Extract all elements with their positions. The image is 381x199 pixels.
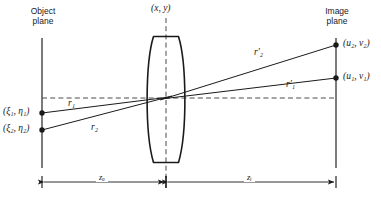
optical-ray-diagram: Object plane Image plane (x, y) (ξ₁, η₁)… [0, 0, 381, 199]
object-plane-label-line2: plane [20, 16, 66, 26]
ray-r2-label: r₂ [91, 122, 98, 133]
ray-r2-prime [160, 45, 336, 100]
image-distance-label: zᵢ [244, 172, 255, 182]
image-point-1-dot [333, 75, 338, 80]
ray-r1-label: r₁ [68, 98, 75, 109]
image-plane-label-line1: Image [314, 6, 360, 16]
object-point-2-label: (ξ₂, η₂) [3, 123, 29, 134]
ray-r2 [42, 96, 172, 130]
object-point-2-dot [39, 127, 44, 132]
image-point-1-label: (u₁, v₁) [343, 71, 370, 82]
ray-r1-prime [161, 78, 336, 99]
lens-axis-coordinate-label: (x, y) [151, 3, 171, 14]
object-distance-label: zₒ [96, 172, 108, 182]
image-point-2-label: (u₂, v₂) [343, 38, 370, 49]
image-plane-label: Image plane [314, 6, 360, 26]
image-point-2-dot [333, 42, 338, 47]
ray-r2-prime-label: r′₂ [254, 47, 263, 58]
ray-r1-prime-label: r′₁ [286, 79, 295, 90]
object-point-1-dot [39, 110, 44, 115]
object-plane-label: Object plane [20, 6, 66, 26]
diagram-canvas [0, 0, 381, 199]
image-plane-label-line2: plane [314, 16, 360, 26]
object-point-1-label: (ξ₁, η₁) [3, 106, 29, 117]
ray-r1 [42, 97, 170, 113]
object-plane-label-line1: Object [20, 6, 66, 16]
